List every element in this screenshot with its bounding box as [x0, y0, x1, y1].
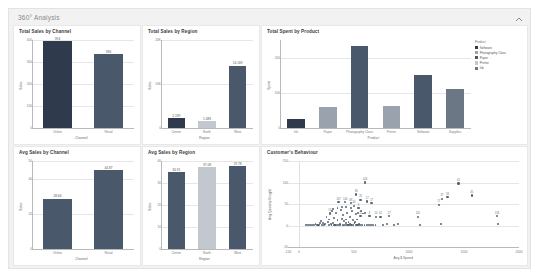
data-point[interactable]: [355, 213, 357, 215]
legend-item[interactable]: Printer: [475, 61, 506, 65]
data-point[interactable]: [446, 196, 448, 198]
chart-card-total-sales-by-channel[interactable]: Total Sales by Channel0100200300400394On…: [13, 25, 141, 145]
data-point[interactable]: [372, 224, 374, 226]
data-point[interactable]: [326, 216, 328, 218]
dashboard-panel: 360° Analysis Total Sales by Channel0100…: [8, 8, 531, 269]
data-point[interactable]: [361, 224, 363, 226]
x-tick-label: West: [234, 130, 241, 134]
data-point[interactable]: [457, 182, 459, 184]
legend-swatch: [475, 46, 478, 49]
bar[interactable]: [229, 166, 246, 249]
data-point[interactable]: [388, 215, 390, 217]
legend-label: Ink: [480, 66, 484, 70]
data-point[interactable]: [345, 219, 347, 221]
legend-item[interactable]: Paper: [475, 56, 506, 60]
bar[interactable]: [446, 89, 464, 128]
data-point[interactable]: [305, 224, 307, 226]
data-point[interactable]: [337, 207, 339, 209]
data-point[interactable]: [329, 212, 331, 214]
axis-vline: [299, 161, 300, 247]
chart-card-avg-sales-by-region[interactable]: Avg Sales by Region01020304034.91Center3…: [142, 146, 260, 266]
data-point[interactable]: [350, 224, 352, 226]
data-point[interactable]: [339, 224, 341, 226]
bar[interactable]: [168, 118, 185, 128]
bar[interactable]: [229, 66, 246, 128]
legend-item[interactable]: Photography Class: [475, 51, 506, 55]
gridline: [280, 93, 471, 94]
chart-card-total-spent-by-product[interactable]: Total Spent by Product0100200InkPaperPho…: [261, 25, 528, 145]
data-point[interactable]: [375, 216, 377, 218]
bar[interactable]: [198, 167, 215, 249]
bar[interactable]: [383, 106, 401, 128]
data-point-label: 144: [343, 198, 347, 201]
data-point[interactable]: [346, 212, 348, 214]
bar[interactable]: [94, 54, 123, 128]
data-point[interactable]: [309, 224, 311, 226]
data-point[interactable]: [393, 224, 395, 226]
data-point[interactable]: [350, 207, 352, 209]
data-point-label: 133: [495, 212, 499, 215]
data-point[interactable]: [335, 212, 337, 214]
bar[interactable]: [414, 75, 432, 128]
data-point[interactable]: [337, 219, 339, 221]
data-point[interactable]: [359, 215, 361, 217]
data-point[interactable]: [419, 224, 421, 226]
data-point[interactable]: [355, 193, 357, 195]
data-point[interactable]: [440, 223, 442, 225]
data-point[interactable]: [471, 194, 473, 196]
data-point[interactable]: [356, 219, 358, 221]
data-point[interactable]: [364, 212, 366, 214]
bar[interactable]: [319, 107, 337, 128]
data-point[interactable]: [327, 221, 329, 223]
data-point[interactable]: [332, 208, 334, 210]
bar[interactable]: [351, 46, 369, 128]
data-point[interactable]: [340, 209, 342, 211]
data-point[interactable]: [318, 224, 320, 226]
chart-card-total-sales-by-region[interactable]: Total Sales by Region010K20K2,199Center1…: [142, 25, 260, 145]
y-tick-label: 40: [146, 159, 161, 163]
data-point[interactable]: [351, 210, 353, 212]
data-point[interactable]: [357, 207, 359, 209]
data-point[interactable]: [328, 224, 330, 226]
data-point[interactable]: [382, 224, 384, 226]
legend-item[interactable]: Ink: [475, 66, 506, 70]
legend-item[interactable]: Software: [475, 46, 506, 50]
data-point[interactable]: [341, 206, 343, 208]
bar[interactable]: [43, 199, 72, 249]
data-point[interactable]: [349, 216, 351, 218]
bar[interactable]: [168, 172, 185, 249]
data-point[interactable]: [331, 210, 333, 212]
data-point[interactable]: [497, 223, 499, 225]
data-point[interactable]: [360, 210, 362, 212]
data-point[interactable]: [386, 223, 388, 225]
data-point[interactable]: [307, 224, 309, 226]
data-point[interactable]: [328, 219, 330, 221]
data-point[interactable]: [342, 214, 344, 216]
data-point[interactable]: [417, 216, 419, 218]
data-point[interactable]: [397, 223, 399, 225]
bar[interactable]: [198, 121, 215, 128]
data-point[interactable]: [353, 205, 355, 207]
data-point[interactable]: [368, 215, 370, 217]
data-point[interactable]: [496, 215, 498, 217]
data-point[interactable]: [323, 224, 325, 226]
data-point[interactable]: [359, 199, 361, 201]
data-point[interactable]: [438, 204, 440, 206]
x-axis-title: Avg $ Spend: [394, 256, 413, 260]
data-point[interactable]: [345, 206, 347, 208]
chart-card-avg-sales-by-channel[interactable]: Avg Sales by Channel020405028.64Online44…: [13, 146, 141, 266]
data-point-label: 37: [441, 194, 444, 197]
bar[interactable]: [43, 41, 72, 128]
bar[interactable]: [94, 170, 123, 249]
chart-card-customers-behaviour[interactable]: Customer's Behaviour-50050100150-1000500…: [261, 146, 528, 266]
y-tick-label: 0: [265, 126, 280, 130]
data-point[interactable]: [364, 181, 366, 183]
data-point[interactable]: [333, 217, 335, 219]
data-point[interactable]: [341, 218, 343, 220]
data-point[interactable]: [379, 216, 381, 218]
data-point[interactable]: [366, 200, 368, 202]
chart-title: Total Sales by Region: [148, 29, 198, 34]
bar[interactable]: [287, 119, 305, 128]
data-point[interactable]: [441, 198, 443, 200]
chevron-up-icon[interactable]: [514, 15, 524, 25]
